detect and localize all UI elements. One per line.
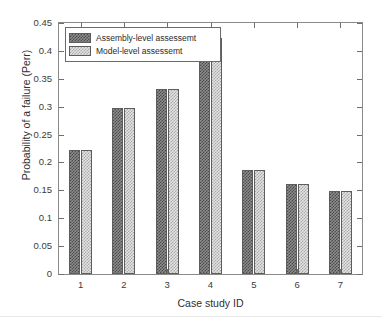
legend-item-assembly-level: Assembly-level assessemt <box>69 32 216 44</box>
bar-model-level-case-7 <box>341 191 352 274</box>
bar-assembly-level-case-7 <box>329 191 340 274</box>
bar-model-level-case-6 <box>298 184 309 274</box>
x-tick-mark-top <box>340 23 341 28</box>
y-tick-mark <box>59 23 64 24</box>
y-tick-mark <box>59 135 64 136</box>
scan-artifact-line <box>0 316 382 317</box>
y-tick-mark-right <box>357 274 362 275</box>
y-tick-label: 0.05 <box>6 240 52 251</box>
bar-assembly-level-case-3 <box>156 89 167 274</box>
y-tick-mark <box>59 274 64 275</box>
y-tick-label: 0.35 <box>6 73 52 84</box>
bar-model-level-case-4 <box>211 38 222 274</box>
y-tick-mark-right <box>357 135 362 136</box>
legend-swatch-model-level <box>69 46 91 56</box>
bar-assembly-level-case-6 <box>286 184 297 274</box>
y-tick-mark <box>59 79 64 80</box>
legend-label-model-level: Model-level assessemt <box>96 46 182 56</box>
legend-swatch-assembly-level <box>69 33 91 43</box>
y-tick-mark <box>59 246 64 247</box>
y-tick-mark-right <box>357 107 362 108</box>
bar-assembly-level-case-2 <box>112 108 123 274</box>
x-tick-label: 5 <box>234 279 274 290</box>
y-tick-label: 0.1 <box>6 212 52 223</box>
y-tick-label: 0.4 <box>6 45 52 56</box>
y-tick-mark-right <box>357 218 362 219</box>
x-tick-label: 6 <box>277 279 317 290</box>
bar-assembly-level-case-5 <box>242 170 253 274</box>
y-tick-label: 0 <box>6 268 52 279</box>
x-tick-label: 2 <box>104 279 144 290</box>
bar-model-level-case-1 <box>81 150 92 274</box>
x-tick-mark-top <box>297 23 298 28</box>
y-tick-mark-right <box>357 23 362 24</box>
y-tick-label: 0.3 <box>6 101 52 112</box>
y-tick-mark-right <box>357 246 362 247</box>
y-tick-label: 0.15 <box>6 184 52 195</box>
x-tick-label: 4 <box>191 279 231 290</box>
y-tick-mark-right <box>357 51 362 52</box>
bar-assembly-level-case-4 <box>199 38 210 274</box>
x-tick-label: 7 <box>320 279 360 290</box>
y-tick-mark <box>59 162 64 163</box>
y-tick-mark <box>59 107 64 108</box>
x-tick-label: 3 <box>147 279 187 290</box>
x-axis-title: Case study ID <box>58 297 363 309</box>
bar-model-level-case-3 <box>168 89 179 274</box>
chart-figure: Probability of a failure (Perr) 00.050.1… <box>0 0 382 322</box>
y-tick-mark-right <box>357 79 362 80</box>
y-tick-mark-right <box>357 162 362 163</box>
y-tick-label: 0.2 <box>6 156 52 167</box>
chart-legend: Assembly-level assessemt Model-level ass… <box>65 27 221 62</box>
legend-label-assembly-level: Assembly-level assessemt <box>96 33 196 43</box>
legend-item-model-level: Model-level assessemt <box>69 45 216 57</box>
y-tick-label: 0.45 <box>6 17 52 28</box>
x-tick-label: 1 <box>61 279 101 290</box>
y-tick-mark <box>59 218 64 219</box>
x-tick-mark-top <box>254 23 255 28</box>
y-tick-mark <box>59 51 64 52</box>
bar-model-level-case-5 <box>254 170 265 274</box>
y-tick-mark-right <box>357 190 362 191</box>
y-tick-label: 0.25 <box>6 129 52 140</box>
y-tick-mark <box>59 190 64 191</box>
bar-assembly-level-case-1 <box>69 150 80 274</box>
bar-model-level-case-2 <box>124 108 135 274</box>
